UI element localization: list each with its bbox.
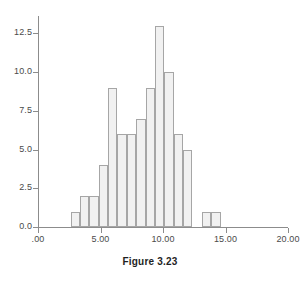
histogram-bar (108, 88, 117, 228)
histogram-bars (0, 0, 300, 245)
histogram-bar (136, 119, 145, 228)
histogram-bar (80, 196, 89, 227)
histogram-bar (117, 134, 126, 227)
histogram-bar (174, 134, 183, 227)
histogram-bar (155, 26, 164, 228)
histogram-bar (164, 72, 173, 227)
figure-container: 0.02.55.07.510.012.5 .005.0010.0015.0020… (0, 0, 300, 283)
histogram-plot: 0.02.55.07.510.012.5 .005.0010.0015.0020… (0, 0, 300, 245)
histogram-bar (146, 88, 155, 228)
histogram-bar (202, 212, 211, 228)
histogram-bar (211, 212, 220, 228)
figure-caption: Figure 3.23 (0, 256, 300, 267)
histogram-bar (127, 134, 136, 227)
histogram-bar (99, 165, 108, 227)
histogram-bar (89, 196, 98, 227)
histogram-bar (71, 212, 80, 228)
histogram-bar (183, 150, 192, 228)
